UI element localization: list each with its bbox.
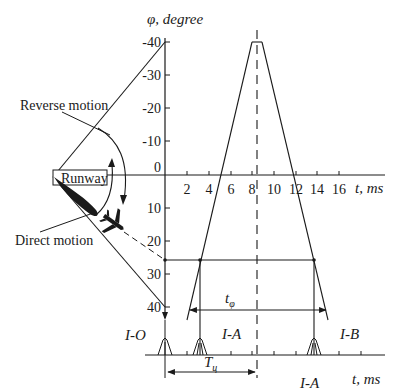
- label-ia-top: I-A: [221, 326, 242, 342]
- svg-text:-40: -40: [142, 35, 161, 50]
- reverse-motion-label: Reverse motion: [20, 98, 108, 113]
- svg-text:14: 14: [310, 182, 324, 197]
- label-ib: I-B: [339, 326, 359, 342]
- svg-text:40: 40: [147, 300, 161, 315]
- pulse-io: [158, 320, 172, 355]
- label-io: I-O: [124, 327, 146, 343]
- t-axis-tick-labels: 2 4 6 8 10 12 14 16: [184, 182, 347, 197]
- svg-text:8: 8: [249, 182, 256, 197]
- t-c-label: Tц: [204, 354, 217, 373]
- svg-text:10: 10: [267, 182, 281, 197]
- scan-line-reverse: [262, 42, 328, 320]
- diagram-canvas: -40 -30 -20 -10 0 10 20 30 40 φ, degree …: [0, 0, 398, 390]
- svg-text:30: 30: [147, 267, 161, 282]
- svg-text:-30: -30: [142, 68, 161, 83]
- svg-text:4: 4: [206, 182, 213, 197]
- phi-axis-arrow-icon: [162, 312, 168, 320]
- scan-line-forward: [187, 42, 252, 320]
- pulse-axis-ticks: [187, 351, 361, 355]
- reverse-motion-leader: [62, 112, 110, 135]
- svg-text:20: 20: [147, 234, 161, 249]
- direct-motion-leader: [40, 212, 96, 232]
- direct-motion-label: Direct motion: [15, 233, 93, 248]
- label-t-ms-bottom: t, ms: [352, 371, 381, 387]
- aircraft-icon: [95, 204, 132, 241]
- reverse-arrow-icon: [120, 195, 127, 205]
- svg-text:2: 2: [184, 182, 191, 197]
- t-phi-label: tφ: [225, 290, 235, 309]
- label-ia-bottom: I-A: [299, 375, 320, 390]
- phi-axis-label: φ, degree: [147, 11, 203, 27]
- svg-text:0: 0: [154, 160, 161, 175]
- direct-arrow-icon: [108, 158, 115, 167]
- runway-label: Runway: [61, 171, 108, 186]
- svg-text:10: 10: [147, 201, 161, 216]
- t-axis-label: t, ms: [355, 180, 384, 196]
- svg-text:-10: -10: [142, 134, 161, 149]
- svg-text:-20: -20: [142, 101, 161, 116]
- scanning-beam-diagram: -40 -30 -20 -10 0 10 20 30 40 φ, degree …: [0, 0, 398, 390]
- t-axis-ticks: [187, 171, 339, 175]
- svg-text:16: 16: [332, 182, 346, 197]
- svg-text:6: 6: [228, 182, 235, 197]
